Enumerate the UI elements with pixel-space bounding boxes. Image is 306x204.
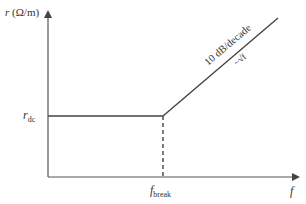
sqrt-f-annotation: ~√f (232, 52, 248, 68)
y-axis-label: r (Ω/m) (5, 6, 39, 19)
x-axis-label: f (290, 184, 295, 198)
sqrt-f-slope-line (163, 18, 278, 116)
resistance-frequency-diagram: r (Ω/m) rdc fbreak f 10 dB/decade ~√f (0, 0, 306, 204)
fbreak-label: fbreak (150, 183, 171, 199)
rdc-label: rdc (23, 108, 36, 124)
